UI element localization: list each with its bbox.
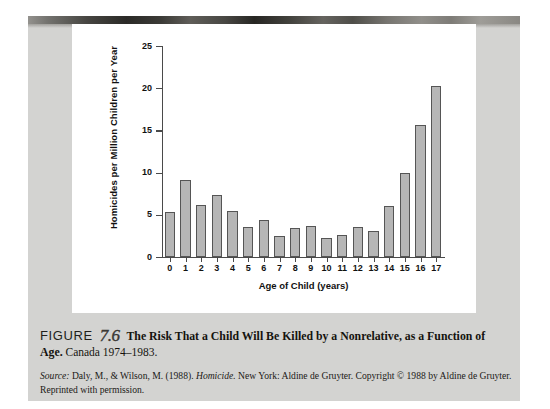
y-tick xyxy=(156,46,162,47)
scan-artifact-band xyxy=(28,16,520,24)
source-text-part1: Daly, M., & Wilson, M. (1988). xyxy=(69,370,195,381)
figure-label-word: FIGURE xyxy=(40,328,93,343)
bar xyxy=(337,235,347,257)
x-tick-label: 17 xyxy=(426,263,446,273)
bar xyxy=(243,227,253,257)
bar xyxy=(259,220,269,257)
x-tick xyxy=(264,258,265,262)
bar xyxy=(384,206,394,257)
x-tick xyxy=(436,258,437,262)
bar xyxy=(400,173,410,257)
bar xyxy=(212,195,222,257)
figure-panel: Homicides per Million Children per Year … xyxy=(72,24,476,313)
figure-title-line2: Age. xyxy=(40,345,63,359)
figure-subtitle: Canada 1974–1983. xyxy=(63,346,158,358)
bar xyxy=(321,238,331,257)
y-axis-label: Homicides per Million Children per Year xyxy=(108,29,119,247)
x-tick xyxy=(217,258,218,262)
x-tick xyxy=(358,258,359,262)
bar xyxy=(368,231,378,257)
bar xyxy=(353,227,363,257)
y-tick xyxy=(156,130,162,131)
x-tick xyxy=(295,258,296,262)
bar xyxy=(431,86,441,257)
figure-title-line1: The Risk That a Child Will Be Killed by … xyxy=(126,329,485,343)
x-tick xyxy=(186,258,187,262)
y-tick xyxy=(156,88,162,89)
x-tick xyxy=(342,258,343,262)
bar xyxy=(165,212,175,257)
x-tick xyxy=(374,258,375,262)
bar-chart: Homicides per Million Children per Year … xyxy=(72,24,476,313)
x-tick xyxy=(389,258,390,262)
x-tick xyxy=(405,258,406,262)
x-tick xyxy=(233,258,234,262)
source-prefix: Source: xyxy=(40,370,69,381)
bar xyxy=(415,125,425,257)
y-tick xyxy=(156,173,162,174)
x-axis-line xyxy=(162,257,445,258)
x-tick xyxy=(201,258,202,262)
figure-caption: FIGURE7.6The Risk That a Child Will Be K… xyxy=(40,327,510,360)
y-axis-line xyxy=(162,46,163,258)
x-tick xyxy=(170,258,171,262)
bar xyxy=(180,180,190,257)
x-tick xyxy=(248,258,249,262)
y-tick xyxy=(156,215,162,216)
scanned-page: Homicides per Million Children per Year … xyxy=(0,0,550,409)
bar xyxy=(290,228,300,257)
figure-source: Source: Daly, M., & Wilson, M. (1988). H… xyxy=(40,369,512,396)
bar xyxy=(306,226,316,257)
x-axis-label: Age of Child (years) xyxy=(162,280,445,291)
bar xyxy=(274,236,284,257)
x-tick xyxy=(327,258,328,262)
x-tick xyxy=(280,258,281,262)
y-tick xyxy=(156,257,162,258)
x-tick xyxy=(311,258,312,262)
figure-number: 7.6 xyxy=(100,328,120,343)
x-tick xyxy=(421,258,422,262)
bar xyxy=(227,211,237,257)
bar xyxy=(196,205,206,257)
source-work-title: Homicide. xyxy=(196,370,236,381)
